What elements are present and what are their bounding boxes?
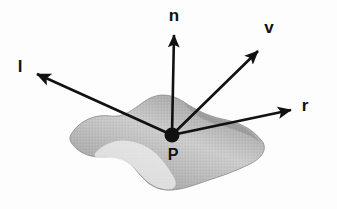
reflection-vector-label: r [302, 96, 309, 115]
surface-point-p-dot [165, 128, 180, 143]
diagram-canvas: n v l r P [0, 0, 337, 209]
illumination-diagram: n v l r P [0, 0, 337, 209]
surface-patch-group [70, 95, 264, 190]
light-vector-label: l [18, 57, 23, 76]
surface-point-p-label: P [168, 146, 179, 163]
normal-vector-label: n [169, 6, 179, 25]
view-vector-label: v [264, 18, 274, 37]
